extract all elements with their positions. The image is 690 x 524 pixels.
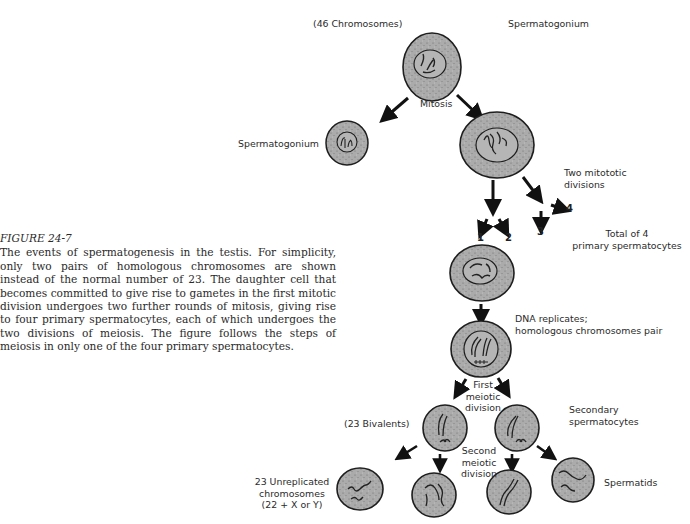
number-2: 2 [505, 232, 512, 243]
cell-replicated-spermatocyte [451, 321, 511, 377]
arrow-to-1 [482, 219, 487, 231]
number-4: 4 [566, 203, 573, 214]
label-23-bivalents: (23 Bivalents) [344, 418, 409, 430]
arrow-to-2 [499, 219, 505, 230]
arrow-second-meiotic-1 [401, 446, 417, 456]
arrow-mitosis-left [386, 98, 408, 117]
label-spermatogonium-left: Spermatogonium [238, 138, 319, 150]
label-two-mitotic-divisions: Two mitototic divisions [564, 167, 627, 190]
label-total-primary-spermatocytes: Total of 4 primary spermatocytes [564, 228, 690, 251]
arrow-diag-to-3-4 [523, 177, 538, 197]
number-3: 3 [537, 226, 544, 237]
label-first-meiotic-division: First meiotic division [462, 379, 504, 414]
cell-spermatogonium-top [403, 33, 461, 101]
cell-spermatogonium-right [460, 112, 534, 178]
label-46-chromosomes: (46 Chromosomes) [313, 18, 402, 30]
spermatogenesis-diagram [0, 0, 690, 524]
cell-spermatid-1 [337, 468, 383, 510]
label-spermatids: Spermatids [604, 477, 657, 489]
arrow-mitosis-right [457, 95, 478, 115]
label-unreplicated-chromosomes: 23 Unreplicated chromosomes (22 + X or Y… [250, 476, 334, 511]
cell-spermatid-2 [412, 473, 456, 517]
label-mitosis: Mitosis [420, 98, 452, 110]
cell-primary-spermatocyte [450, 245, 514, 301]
label-secondary-spermatocytes: Secondary spermatocytes [569, 404, 639, 427]
label-second-meiotic-division: Second meiotic division [458, 445, 500, 480]
arrow-to-4 [551, 205, 563, 209]
number-1: 1 [477, 232, 484, 243]
cell-spermatogonium-left [326, 121, 368, 165]
cell-spermatid-4 [552, 458, 594, 502]
label-spermatogonium-top: Spermatogonium [508, 18, 589, 30]
label-dna-replicates: DNA replicates; homologous chromosomes p… [515, 313, 662, 336]
arrow-second-meiotic-4 [537, 446, 551, 456]
